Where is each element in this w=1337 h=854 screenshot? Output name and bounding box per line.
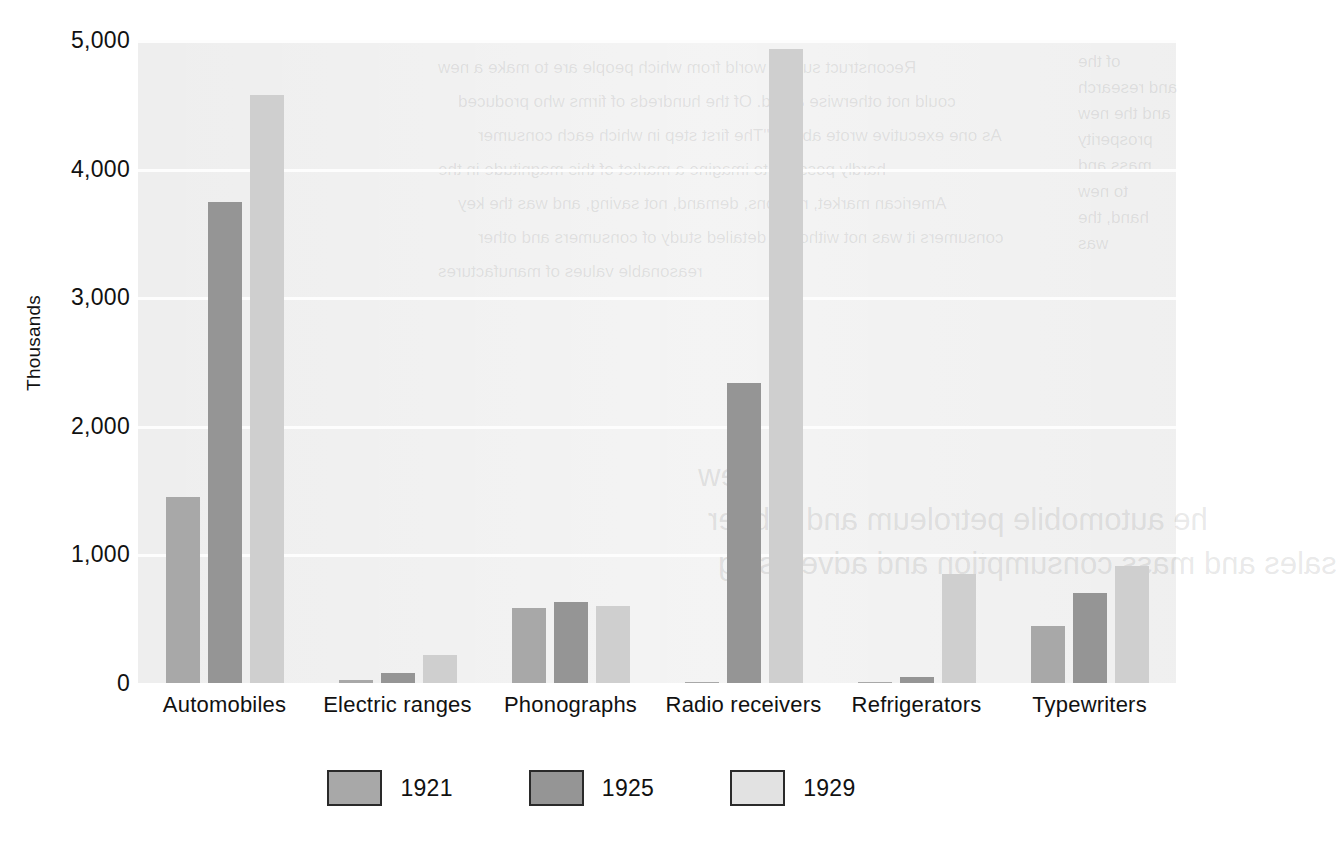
series-2-swatch (730, 770, 785, 806)
bar-group (657, 40, 830, 683)
bar-1929-radio-receivers (769, 49, 803, 683)
bar-1921-phonographs (512, 608, 546, 683)
bar-1925-refrigerators (900, 677, 934, 683)
bar-1925-typewriters (1073, 593, 1107, 683)
bar-1925-automobiles (208, 202, 242, 683)
x-label-refrigerators: Refrigerators (852, 692, 982, 718)
y-tick-label: 5,000 (38, 27, 130, 54)
bar-1925-electric-ranges (381, 673, 415, 683)
x-label-automobiles: Automobiles (163, 692, 286, 718)
bar-series-container (138, 40, 1176, 683)
y-tick-label: 0 (38, 670, 130, 697)
bar-1921-radio-receivers (685, 682, 719, 683)
bar-1921-typewriters (1031, 626, 1065, 683)
bar-group (484, 40, 657, 683)
x-axis-category-labels: AutomobilesElectric rangesPhonographsRad… (138, 692, 1176, 726)
x-label-typewriters: Typewriters (1032, 692, 1147, 718)
x-label-electric-ranges: Electric ranges (323, 692, 472, 718)
y-axis-tick-labels: 01,0002,0003,0004,0005,000 (10, 0, 130, 854)
bar-1929-typewriters (1115, 566, 1149, 683)
series-0-swatch (327, 770, 382, 806)
bar-group (1003, 40, 1176, 683)
bar-1929-refrigerators (942, 574, 976, 683)
legend-entry-1929[interactable]: 1929 (730, 770, 855, 806)
bar-1929-phonographs (596, 606, 630, 683)
y-tick-label: 2,000 (38, 412, 130, 439)
bar-1925-radio-receivers (727, 383, 761, 683)
bar-1929-electric-ranges (423, 655, 457, 683)
y-tick-label: 3,000 (38, 284, 130, 311)
bar-1921-automobiles (166, 497, 200, 683)
legend-label: 1929 (803, 775, 855, 802)
legend-label: 1921 (400, 775, 452, 802)
series-1-swatch (529, 770, 584, 806)
chart-legend: 192119251929 (0, 770, 1183, 806)
y-tick-label: 4,000 (38, 155, 130, 182)
plot-area: Reconstruct such a world from which peop… (138, 40, 1176, 683)
legend-entry-1925[interactable]: 1925 (529, 770, 654, 806)
bar-group (311, 40, 484, 683)
bar-1921-refrigerators (858, 682, 892, 683)
x-label-phonographs: Phonographs (504, 692, 637, 718)
bar-1921-electric-ranges (339, 680, 373, 683)
legend-entry-1921[interactable]: 1921 (327, 770, 452, 806)
y-tick-label: 1,000 (38, 541, 130, 568)
bar-1925-phonographs (554, 602, 588, 683)
bar-1929-automobiles (250, 95, 284, 683)
bar-group (138, 40, 311, 683)
bar-group (830, 40, 1003, 683)
legend-label: 1925 (602, 775, 654, 802)
x-label-radio-receivers: Radio receivers (666, 692, 822, 718)
